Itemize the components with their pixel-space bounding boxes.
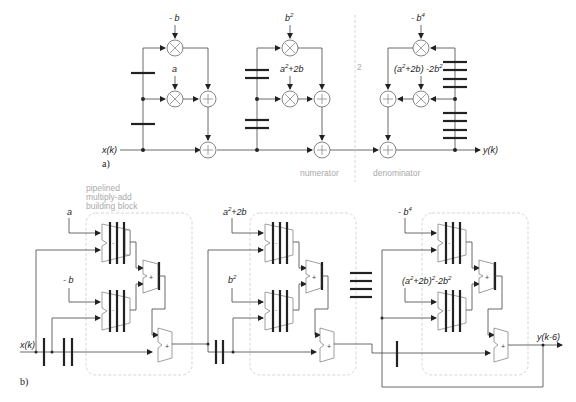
- svg-text:·: ·: [275, 307, 277, 314]
- svg-text:·: ·: [112, 307, 114, 314]
- output-label-b: y(k-6): [536, 332, 560, 342]
- part-b-label: b): [20, 376, 28, 388]
- coef-a: a: [172, 64, 177, 74]
- input-label-a: x(k): [101, 145, 117, 155]
- svg-text:- b4: - b4: [398, 206, 413, 217]
- svg-text:(a2+2b)2-2b2: (a2+2b)2-2b2: [402, 275, 452, 286]
- output-adder: +: [158, 328, 172, 362]
- numerator-label: numerator: [300, 168, 339, 178]
- svg-text:a2+2b: a2+2b: [223, 206, 247, 217]
- svg-text:b2: b2: [228, 274, 237, 285]
- svg-text:- b4: - b4: [411, 12, 426, 23]
- input-label-b: x(k): [19, 340, 35, 350]
- coef-neg-b: - b: [169, 13, 180, 23]
- svg-text:+: +: [485, 274, 489, 281]
- output-adder: +: [320, 328, 334, 362]
- diagram-canvas: x(k) a) y(k) - b a: [0, 0, 576, 402]
- svg-text:(a2+2b) -2b2: (a2+2b) -2b2: [394, 63, 443, 74]
- svg-text:+: +: [165, 343, 169, 350]
- pipelined-multiplier: ·: [265, 222, 293, 264]
- svg-text:+: +: [149, 274, 153, 281]
- pipelined-multiplier: ·: [438, 290, 466, 332]
- svg-text:·: ·: [448, 240, 450, 247]
- svg-text:building block: building block: [86, 201, 138, 211]
- svg-text:a2+2b: a2+2b: [280, 63, 304, 74]
- svg-text:+: +: [312, 274, 316, 281]
- pipelined-multiplier: ·: [102, 222, 130, 264]
- svg-text:+: +: [327, 343, 331, 350]
- svg-text:- b: - b: [63, 275, 74, 285]
- svg-text:·: ·: [448, 307, 450, 314]
- pipelined-adder: +: [306, 260, 322, 293]
- part-a-label: a): [102, 158, 110, 170]
- pipelined-multiplier: ·: [102, 290, 130, 332]
- pipelined-multiplier: ·: [438, 222, 466, 264]
- svg-text:2: 2: [357, 62, 362, 72]
- pipelined-adder: +: [143, 260, 159, 293]
- svg-text:b2: b2: [285, 12, 294, 23]
- part-b-pipelined: pipelined multiply-add building block b)…: [19, 183, 562, 388]
- svg-text:+: +: [501, 343, 505, 350]
- pipelined-adder: +: [479, 260, 495, 293]
- pipelined-multiplier: ·: [265, 290, 293, 332]
- svg-text:·: ·: [112, 240, 114, 247]
- output-label-a: y(k): [482, 145, 498, 155]
- denominator-label: denominator: [373, 168, 420, 178]
- svg-text:·: ·: [275, 240, 277, 247]
- output-adder: +: [494, 328, 508, 362]
- svg-text:a: a: [67, 207, 72, 217]
- part-a-filter: x(k) a) y(k) - b a: [101, 12, 498, 182]
